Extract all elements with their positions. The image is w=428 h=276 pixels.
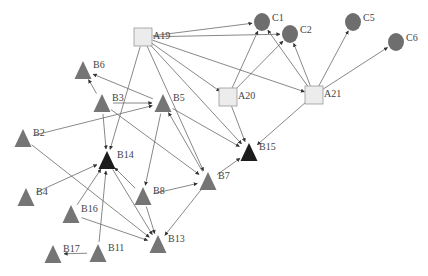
node-label: B8 <box>153 185 165 196</box>
triangle-node-icon <box>200 172 217 190</box>
node-label: B2 <box>33 127 45 138</box>
edge-B8-B13 <box>146 206 154 233</box>
circle-node-icon <box>345 13 361 31</box>
node-label: B3 <box>112 92 124 103</box>
circle-node-icon <box>254 13 270 31</box>
edge-A19-C2 <box>153 34 280 37</box>
network-diagram: A19A20A21C1C2C5C6B6B3B5B2B14B15B7B4B8B16… <box>0 0 428 276</box>
edge-B5-B8 <box>145 114 160 185</box>
triangle-node-icon <box>18 188 35 206</box>
node-c2: C2 <box>282 24 312 43</box>
triangle-node-icon <box>135 187 152 205</box>
node-b13: B13 <box>150 233 185 253</box>
node-label: C2 <box>300 24 312 35</box>
node-label: B14 <box>117 149 134 160</box>
node-label: B5 <box>173 92 185 103</box>
node-label: A21 <box>324 88 341 99</box>
node-label: B6 <box>93 59 105 70</box>
dark-triangle-node-icon <box>241 143 258 161</box>
edge-A20-B15 <box>232 106 246 141</box>
triangle-node-icon <box>15 129 32 147</box>
node-label: C6 <box>406 32 418 43</box>
edge-B16-B13 <box>81 218 147 241</box>
node-label: C1 <box>272 12 284 23</box>
edge-B2-B5 <box>34 106 153 136</box>
dark-triangle-node-icon <box>99 151 116 169</box>
edge-B3-B14 <box>103 114 106 149</box>
edge-B7-B5 <box>168 113 202 172</box>
node-c6: C6 <box>388 32 418 51</box>
node-label: B16 <box>81 203 98 214</box>
square-node-icon <box>219 88 237 106</box>
edge-B3-B6 <box>88 80 96 94</box>
edge-B7-B13 <box>165 190 201 236</box>
node-label: B4 <box>36 186 48 197</box>
node-label: A19 <box>153 30 170 41</box>
triangle-node-icon <box>150 235 167 253</box>
edge-A21-C6 <box>322 47 387 89</box>
node-b15: B15 <box>241 141 276 161</box>
node-label: B7 <box>218 170 230 181</box>
edge-B11-B14 <box>99 171 106 242</box>
nodes-layer: A19A20A21C1C2C5C6B6B3B5B2B14B15B7B4B8B16… <box>15 12 418 263</box>
edge-A19-A21 <box>152 40 304 92</box>
node-label: B11 <box>108 242 124 253</box>
node-b4: B4 <box>18 186 48 206</box>
circle-node-icon <box>282 25 298 43</box>
node-label: B17 <box>63 243 80 254</box>
node-b8: B8 <box>135 185 165 205</box>
node-b14: B14 <box>99 149 134 169</box>
node-b17: B17 <box>45 243 80 263</box>
node-label: B13 <box>168 233 185 244</box>
triangle-node-icon <box>75 61 92 79</box>
node-label: C5 <box>363 12 375 23</box>
node-b11: B11 <box>90 242 125 262</box>
triangle-node-icon <box>94 94 111 112</box>
square-node-icon <box>134 28 152 46</box>
node-c1: C1 <box>254 12 284 31</box>
node-label: B15 <box>259 141 276 152</box>
node-b6: B6 <box>75 59 105 79</box>
edge-A21-B15 <box>257 102 306 145</box>
node-b3: B3 <box>94 92 124 112</box>
node-a20: A20 <box>219 88 255 106</box>
triangle-node-icon <box>63 205 80 223</box>
node-label: A20 <box>238 90 255 101</box>
edges-layer <box>32 23 388 254</box>
node-a19: A19 <box>134 28 170 46</box>
node-a21: A21 <box>305 86 341 104</box>
square-node-icon <box>305 86 323 104</box>
node-b16: B16 <box>63 203 98 223</box>
edge-B5-B15 <box>173 108 240 146</box>
triangle-node-icon <box>90 244 107 262</box>
node-b2: B2 <box>15 127 45 147</box>
node-b7: B7 <box>200 170 230 190</box>
edge-A21-C5 <box>319 31 349 86</box>
edge-A19-B7 <box>147 46 203 171</box>
edge-A21-C2 <box>294 43 311 85</box>
edge-B16-B14 <box>77 169 101 205</box>
triangle-node-icon <box>155 94 172 112</box>
circle-node-icon <box>388 33 404 51</box>
triangle-node-icon <box>45 245 62 263</box>
node-c5: C5 <box>345 12 375 31</box>
edge-A19-A20 <box>151 43 220 91</box>
